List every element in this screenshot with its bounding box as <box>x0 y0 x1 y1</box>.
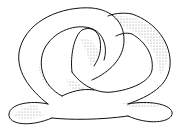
illustration-canvas <box>0 0 187 139</box>
knot-drawing <box>0 0 187 139</box>
